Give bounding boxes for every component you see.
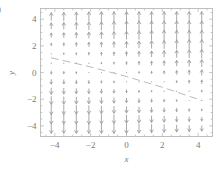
y-tick-label: 0 xyxy=(32,68,37,78)
x-tick-label: 4 xyxy=(196,140,201,150)
figure-panel: ) x y −4−2024−4−2024 xyxy=(0,0,222,173)
x-tick-label: 0 xyxy=(124,140,129,150)
x-axis-label: x xyxy=(125,154,129,164)
y-tick-label: 2 xyxy=(32,41,37,51)
y-tick-label: −2 xyxy=(27,94,37,104)
x-tick-label: −4 xyxy=(50,140,60,150)
x-tick-label: −2 xyxy=(86,140,96,150)
y-tick-label: 4 xyxy=(32,14,37,24)
quiver-arrows xyxy=(50,12,204,134)
y-axis-label: y xyxy=(6,71,16,75)
y-tick-label: −4 xyxy=(27,121,37,131)
vector-field-plot xyxy=(0,0,222,173)
x-tick-label: 2 xyxy=(160,140,165,150)
